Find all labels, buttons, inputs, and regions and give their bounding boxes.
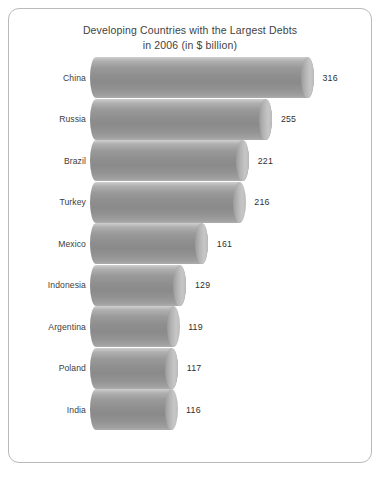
bar	[90, 306, 179, 347]
chart-bar-row: Brazil221	[9, 140, 373, 181]
category-label: Turkey	[9, 197, 86, 207]
chart-bar-row: Indonesia129	[9, 265, 373, 306]
chart-bar-row: Poland117	[9, 348, 373, 389]
bar-value-label: 119	[188, 322, 203, 332]
bar	[90, 348, 178, 389]
bar-body	[90, 57, 314, 98]
chart-plot-area: China316Russia255Brazil221Turkey216Mexic…	[9, 57, 373, 457]
bar-value-label: 129	[195, 280, 210, 290]
bar-value-label: 316	[323, 73, 338, 83]
bar-value-label: 116	[186, 405, 201, 415]
bar-end-cap	[165, 389, 178, 430]
category-label: India	[9, 405, 86, 415]
bar-end-cap	[167, 306, 180, 347]
bar-body	[90, 182, 245, 223]
bar	[90, 265, 186, 306]
chart-bar-row: China316	[9, 57, 373, 98]
chart-title-line-1: Developing Countries with the Largest De…	[9, 23, 371, 38]
bar-end-cap	[233, 182, 246, 223]
category-label: Mexico	[9, 239, 86, 249]
category-label: China	[9, 73, 86, 83]
bar-value-label: 161	[217, 239, 232, 249]
bar	[90, 99, 272, 140]
bar	[90, 223, 208, 264]
chart-bar-row: Mexico161	[9, 223, 373, 264]
bar-body	[90, 140, 249, 181]
bar-body	[90, 99, 272, 140]
chart-title-line-2: in 2006 (in $ billion)	[9, 38, 371, 53]
bar-body	[90, 223, 208, 264]
chart-title: Developing Countries with the Largest De…	[9, 23, 371, 53]
category-label: Russia	[9, 114, 86, 124]
bar-value-label: 255	[281, 114, 296, 124]
bar	[90, 182, 245, 223]
bar-body	[90, 306, 179, 347]
bar-end-cap	[173, 265, 186, 306]
category-label: Poland	[9, 363, 86, 373]
bar	[90, 140, 249, 181]
bar-end-cap	[195, 223, 208, 264]
category-label: Brazil	[9, 156, 86, 166]
chart-bar-row: Russia255	[9, 99, 373, 140]
bar	[90, 57, 314, 98]
chart-bar-row: Turkey216	[9, 182, 373, 223]
bar-end-cap	[301, 57, 314, 98]
bar-body	[90, 265, 186, 306]
bar-value-label: 117	[187, 363, 202, 373]
category-label: Argentina	[9, 322, 86, 332]
category-label: Indonesia	[9, 280, 86, 290]
bar-value-label: 216	[254, 197, 269, 207]
chart-card: Developing Countries with the Largest De…	[8, 8, 372, 463]
chart-bar-row: India116	[9, 389, 373, 430]
chart-bar-row: Argentina119	[9, 306, 373, 347]
bar-end-cap	[259, 99, 272, 140]
bar-value-label: 221	[258, 156, 273, 166]
bar	[90, 389, 177, 430]
